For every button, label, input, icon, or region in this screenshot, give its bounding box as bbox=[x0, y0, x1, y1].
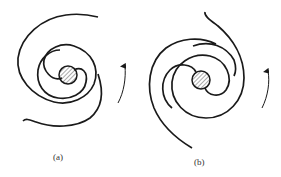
galactic-core-b bbox=[192, 71, 210, 89]
spiral-panel-b bbox=[150, 12, 269, 148]
panel-label-a: (a) bbox=[53, 152, 63, 162]
rotation-arrow-b bbox=[262, 71, 269, 108]
rotation-arrow-a bbox=[118, 66, 125, 103]
figure-canvas bbox=[0, 0, 281, 177]
spiral-panel-a bbox=[18, 14, 125, 126]
spiral-arm-a1 bbox=[18, 14, 98, 103]
galactic-core-a bbox=[59, 66, 77, 84]
panel-label-b: (b) bbox=[194, 157, 205, 167]
spiral-arm-a2 bbox=[23, 50, 101, 126]
